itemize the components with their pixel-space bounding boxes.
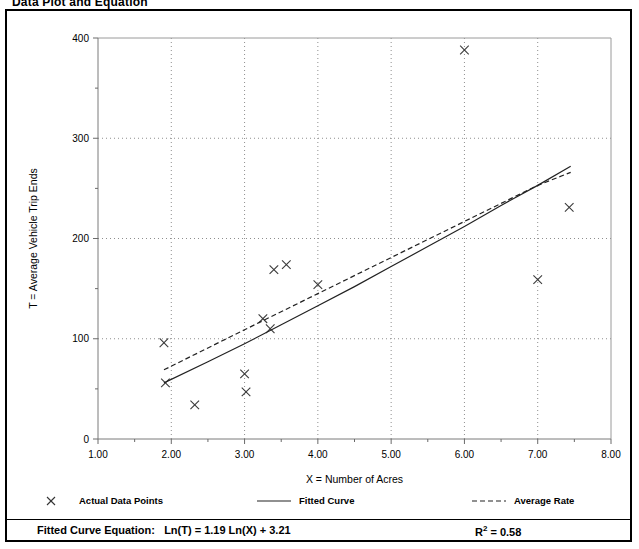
legend-label-actual-data-points: Actual Data Points: [79, 495, 163, 506]
chart-plot-area: 01002003004001.002.003.004.005.006.007.0…: [7, 11, 630, 540]
r-squared-value: R2 = 0.58: [475, 524, 521, 538]
x-axis-tick-label: 8.00: [601, 449, 621, 460]
fitted-curve-equation: Fitted Curve Equation: Ln(T) = 1.19 Ln(X…: [37, 524, 291, 536]
equation-formula: Ln(T) = 1.19 Ln(X) + 3.21: [164, 524, 291, 536]
x-axis-title: X = Number of Acres: [306, 473, 403, 485]
page-title: Data Plot and Equation: [12, 0, 148, 9]
x-axis-tick-label: 7.00: [528, 449, 548, 460]
x-axis-tick-label: 4.00: [308, 449, 328, 460]
y-axis-tick-label: 200: [72, 233, 89, 244]
legend-item-actual-data-points: Actual Data Points: [37, 495, 163, 506]
y-axis-tick-label: 0: [83, 434, 89, 445]
gridlines-group: [98, 38, 611, 439]
data-series-group: [160, 46, 574, 409]
r-squared-exponent: 2: [483, 524, 487, 533]
x-axis-tick-label: 3.00: [235, 449, 255, 460]
data-point-marker: [270, 265, 279, 274]
chart-frame: 01002003004001.002.003.004.005.006.007.0…: [5, 9, 632, 542]
average-rate-line: [164, 172, 571, 369]
y-axis-tick-label: 300: [72, 133, 89, 144]
x-axis-tick-label: 2.00: [162, 449, 182, 460]
x-axis-tick-label: 1.00: [88, 449, 108, 460]
x-axis-tick-label: 5.00: [381, 449, 401, 460]
legend-label-average-rate: Average Rate: [514, 495, 574, 506]
scatter-chart-svg: 01002003004001.002.003.004.005.006.007.0…: [7, 11, 630, 491]
y-axis-tick-label: 400: [72, 33, 89, 44]
legend-item-fitted-curve: Fitted Curve: [257, 495, 354, 506]
y-axis-title: T = Average Vehicle Trip Ends: [27, 168, 39, 309]
data-point-marker: [190, 401, 199, 410]
solid-line-icon: [257, 496, 291, 506]
data-point-marker: [160, 338, 169, 347]
data-point-marker: [161, 379, 170, 388]
equation-prefix: Fitted Curve Equation:: [37, 524, 155, 536]
chart-legend: Actual Data Points Fitted Curve Average …: [7, 491, 630, 517]
legend-item-average-rate: Average Rate: [472, 495, 574, 506]
x-axis-tick-label: 6.00: [455, 449, 475, 460]
axis-labels-group: 01002003004001.002.003.004.005.006.007.0…: [27, 33, 621, 486]
legend-divider: [7, 519, 630, 520]
r-squared-label: R: [475, 526, 483, 538]
data-point-marker: [565, 203, 574, 212]
x-marker-icon: [37, 496, 71, 506]
axes-group: [93, 38, 611, 444]
r-squared-number: = 0.58: [490, 526, 521, 538]
data-point-marker: [242, 388, 251, 397]
legend-label-fitted-curve: Fitted Curve: [299, 495, 354, 506]
data-point-marker: [282, 260, 291, 269]
dashed-line-icon: [472, 496, 506, 506]
equation-row: Fitted Curve Equation: Ln(T) = 1.19 Ln(X…: [7, 524, 630, 546]
y-axis-tick-label: 100: [72, 333, 89, 344]
data-point-marker: [460, 46, 469, 55]
data-point-marker: [314, 280, 323, 289]
